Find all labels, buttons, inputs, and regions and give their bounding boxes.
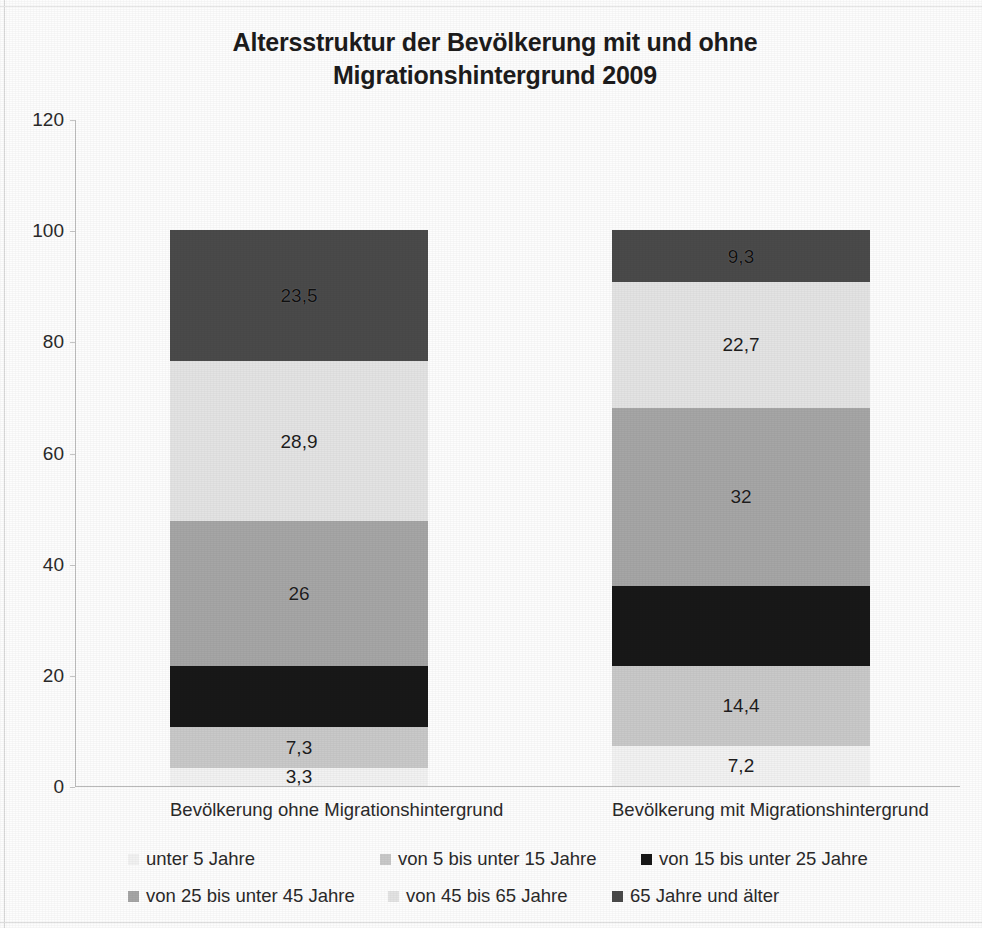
legend-label-2: von 15 bis unter 25 Jahre [659,849,868,869]
scan-edge-top [0,6,982,7]
y-tick-mark-40 [70,565,75,566]
bar-segment-label-0-3: 26 [288,584,309,603]
legend-item-2[interactable]: von 15 bis unter 25 Jahre [641,846,868,872]
bar-segment-0-2[interactable] [170,666,428,727]
legend-label-4: von 45 bis 65 Jahre [406,886,567,906]
y-tick-mark-20 [70,676,75,677]
bar-segment-label-1-0: 7,2 [728,756,754,775]
bar-segment-1-4[interactable]: 22,7 [612,282,870,408]
legend-swatch-icon-5 [612,891,623,902]
bar-segment-1-0[interactable]: 7,2 [612,746,870,786]
plot-area: 23,528,9267,33,3 9,322,73214,47,2 [75,120,960,787]
y-tick-mark-80 [70,342,75,343]
bar-segment-0-1[interactable]: 7,3 [170,727,428,768]
y-tick-mark-100 [70,231,75,232]
legend-label-5: 65 Jahre und älter [630,886,779,906]
category-axis-labels: Bevölkerung ohne Migrationshintergrund B… [75,799,960,827]
legend-swatch-icon-0 [128,854,139,865]
bar-segment-1-2[interactable] [612,586,870,666]
y-tick-mark-60 [70,454,75,455]
bar-segment-label-1-5: 9,3 [728,247,754,266]
bar-segment-label-1-4: 22,7 [723,335,760,354]
bar-segment-label-0-5: 23,5 [281,286,318,305]
legend-item-4[interactable]: von 45 bis 65 Jahre [388,883,567,909]
y-tick-label-80: 80 [8,331,64,353]
bar-segment-label-1-3: 32 [730,487,751,506]
legend-swatch-icon-1 [380,854,391,865]
bar-segment-label-0-4: 28,9 [281,432,318,451]
bar-segment-0-0[interactable]: 3,3 [170,768,428,786]
bar-segment-0-4[interactable]: 28,9 [170,361,428,522]
bar-segment-0-5[interactable]: 23,5 [170,230,428,361]
y-axis-labels: 020406080100120 [0,120,64,787]
legend-item-0[interactable]: unter 5 Jahre [128,846,255,872]
bar-segment-1-3[interactable]: 32 [612,408,870,586]
stacked-bar-mit-migrationshintergrund[interactable]: 9,322,73214,47,2 [612,230,870,786]
legend-swatch-icon-2 [641,854,652,865]
legend-row-0: unter 5 Jahrevon 5 bis unter 15 Jahrevon… [0,846,982,878]
y-tick-label-20: 20 [8,665,64,687]
legend-label-0: unter 5 Jahre [146,849,255,869]
legend-swatch-icon-3 [128,891,139,902]
x-axis-line [75,786,960,787]
y-tick-label-0: 0 [8,776,64,798]
bar-segment-label-1-1: 14,4 [723,696,760,715]
scan-edge-bottom [0,922,982,923]
legend-row-1: von 25 bis unter 45 Jahrevon 45 bis 65 J… [0,883,982,915]
chart-title-line-1: Altersstruktur der Bevölkerung mit und o… [70,26,920,59]
y-axis-line [75,120,76,787]
stacked-bar-ohne-migrationshintergrund[interactable]: 23,528,9267,33,3 [170,230,428,786]
bar-segment-1-1[interactable]: 14,4 [612,666,870,746]
legend-item-1[interactable]: von 5 bis unter 15 Jahre [380,846,597,872]
chart-legend: unter 5 Jahrevon 5 bis unter 15 Jahrevon… [0,846,982,922]
legend-label-3: von 25 bis unter 45 Jahre [146,886,355,906]
legend-label-1: von 5 bis unter 15 Jahre [398,849,597,869]
bar-segment-label-0-1: 7,3 [286,738,312,757]
y-tick-label-40: 40 [8,554,64,576]
y-tick-mark-120 [70,120,75,121]
bar-segment-1-5[interactable]: 9,3 [612,230,870,282]
chart-root: Altersstruktur der Bevölkerung mit und o… [0,0,982,928]
category-label-1: Bevölkerung mit Migrationshintergrund [612,799,870,821]
chart-title: Altersstruktur der Bevölkerung mit und o… [70,26,920,92]
y-tick-label-120: 120 [8,109,64,131]
y-tick-label-100: 100 [8,220,64,242]
y-tick-label-60: 60 [8,443,64,465]
legend-item-3[interactable]: von 25 bis unter 45 Jahre [128,883,355,909]
category-label-0: Bevölkerung ohne Migrationshintergrund [170,799,428,821]
legend-swatch-icon-4 [388,891,399,902]
bar-segment-label-0-0: 3,3 [286,767,312,786]
chart-title-line-2: Migrationshintergrund 2009 [70,59,920,92]
y-tick-mark-0 [70,787,75,788]
legend-item-5[interactable]: 65 Jahre und älter [612,883,779,909]
bar-segment-0-3[interactable]: 26 [170,521,428,666]
